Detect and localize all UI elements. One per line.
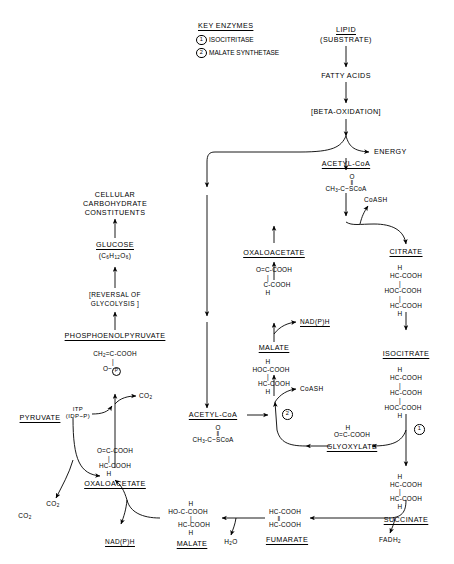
malate-bottom-line-2: HO-C-COOH <box>168 508 207 516</box>
malate-middle-line-2: HOC-COOH <box>252 366 289 374</box>
node-pep: PHOSPHOENOLPYRUVATE <box>65 332 166 340</box>
pep-phosphate: O~P <box>103 365 121 376</box>
key-enzyme-2-label: MALATE SYNTHETASE <box>209 49 279 56</box>
node-isocitrate: ISOCITRATE <box>383 350 430 358</box>
succinate-h-bottom: H <box>398 503 403 511</box>
enzyme-1-marker-icon: 1 <box>414 424 425 435</box>
oxaloacetate-bottom-line-1: O=C-COOH <box>97 447 133 455</box>
node-succinate: SUCCINATE <box>384 516 429 524</box>
isocitrate-h-top: H <box>398 366 403 374</box>
node-constituents-line1: CELLULAR <box>95 191 135 199</box>
citrate-h-bottom: H <box>398 310 403 318</box>
succinate-line-3: HC-COOH <box>390 495 422 503</box>
enzyme-1-circle-icon: 1 <box>196 35 207 46</box>
node-fatty-acids: FATTY ACIDS <box>321 72 371 80</box>
key-enzyme-item-1: 1 ISOCITRITASE <box>196 35 279 46</box>
malate-middle-h-bottom: H <box>266 388 271 396</box>
node-constituents-line3: CONSTITUENTS <box>85 209 146 217</box>
node-coash-middle: CoASH <box>300 385 324 392</box>
node-nadph-top: NAD(P)H <box>300 318 330 325</box>
oxaloacetate-bottom-h: H <box>107 470 112 478</box>
acetyl-coa-top-formula: CH3-C~SCoA <box>326 185 367 193</box>
malate-bottom-h-bottom: H <box>189 529 194 537</box>
node-fumarate: FUMARATE <box>266 536 308 544</box>
fumarate-line-2: HC-COOH <box>269 521 301 529</box>
node-lipid: LIPID <box>336 26 356 34</box>
node-nadph-bottom: NAD(P)H <box>105 538 135 545</box>
key-enzymes-heading: KEY ENZYMES <box>198 22 253 30</box>
node-fadh2: FADH2 <box>379 536 401 545</box>
malate-bottom-h-top: H <box>189 500 194 508</box>
pathway-diagram-canvas: KEY ENZYMES 1 ISOCITRITASE 2 MALATE SYNT… <box>0 0 454 564</box>
oxaloacetate-top-line-2: C-COOH <box>263 281 290 289</box>
node-co2-pep: CO2 <box>139 392 153 401</box>
oxaloacetate-top-h: H <box>266 289 271 297</box>
node-idp-p: (IDP~P) <box>66 413 90 419</box>
malate-bottom-line-3: HC-COOH <box>178 521 210 529</box>
node-citrate: CITRATE <box>389 248 422 256</box>
oxaloacetate-bottom-line-2: HC-COOH <box>99 462 131 470</box>
node-reversal-glycolysis-line1: [REVERSAL OF <box>89 291 141 298</box>
enzyme-2-marker-icon: 2 <box>282 409 293 420</box>
isocitrate-line-2: HC-COOH <box>390 374 422 382</box>
key-enzyme-item-2: 2 MALATE SYNTHETASE <box>196 48 279 59</box>
isocitrate-h-bottom: H <box>398 412 403 420</box>
succinate-h-top: H <box>398 473 403 481</box>
node-energy: ENERGY <box>374 148 407 156</box>
node-co2-bottom-left: CO2 <box>18 512 32 521</box>
isocitrate-line-3: HC-COOH <box>390 389 422 397</box>
node-glucose-formula: (C6H12O6) <box>99 252 132 261</box>
node-oxaloacetate-top: OXALOACETATE <box>243 249 305 257</box>
acetyl-coa-bottom-formula: CH3-C~SCoA <box>193 436 234 444</box>
node-acetyl-coa-bottom: ACETYL-CoA <box>189 411 237 419</box>
oxaloacetate-top-line-1: O=C-COOH <box>256 266 292 274</box>
node-beta-oxidation: [BETA-OXIDATION] <box>311 108 381 116</box>
node-glyoxylate: GLYOXYLATE <box>327 443 377 451</box>
enzyme-2-circle-icon: 2 <box>196 48 207 59</box>
glyoxylate-line-2: O=C-COOH <box>334 431 370 439</box>
key-enzymes-list: 1 ISOCITRITASE 2 MALATE SYNTHETASE <box>196 32 279 58</box>
malate-middle-line-3: HC-COOH <box>258 380 290 388</box>
node-malate-middle: MALATE <box>259 344 290 352</box>
succinate-line-2: HC-COOH <box>390 481 422 489</box>
citrate-line-3: HOC-COOH <box>384 287 421 295</box>
key-enzyme-1-label: ISOCITRITASE <box>209 36 254 43</box>
citrate-line-4: HC-COOH <box>390 302 422 310</box>
node-oxaloacetate-bottom: OXALOACETATE <box>84 480 146 488</box>
pathway-arrows-layer <box>0 0 454 564</box>
node-coash-top: CoASH <box>364 196 388 203</box>
node-pyruvate: PYRUVATE <box>20 414 61 422</box>
fumarate-line-1: HC-COOH <box>269 508 301 516</box>
isocitrate-line-4: HOC-COOH <box>384 404 421 412</box>
malate-middle-h-top: H <box>266 358 271 366</box>
node-constituents-line2: CARBOHYDRATE <box>83 200 147 208</box>
node-acetyl-coa-top: ACETYL-CoA <box>322 160 370 168</box>
node-co2-pyruvate: CO2 <box>46 500 60 509</box>
citrate-h-top: H <box>398 264 403 272</box>
node-malate-bottom: MALATE <box>177 540 208 548</box>
node-water: H2O <box>224 538 238 547</box>
node-reversal-glycolysis-line2: GLYCOLYSIS ] <box>91 300 140 307</box>
node-glucose: GLUCOSE <box>96 241 134 249</box>
citrate-line-2: HC-COOH <box>390 272 422 280</box>
pep-line-1: CH2=C-COOH <box>93 350 136 358</box>
node-lipid-substrate: (SUBSTRATE) <box>320 36 372 44</box>
node-itp: ITP <box>73 406 84 412</box>
